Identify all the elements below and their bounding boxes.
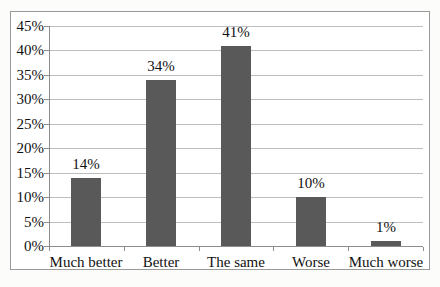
y-tick-label: 0% xyxy=(14,238,44,254)
x-axis-tick xyxy=(49,247,50,251)
y-tick-label: 30% xyxy=(14,91,44,107)
x-axis-tick xyxy=(423,247,424,251)
y-tick-label: 35% xyxy=(14,67,44,83)
bar-much-better xyxy=(71,178,101,246)
y-tick-label: 20% xyxy=(14,140,44,156)
y-axis-tick xyxy=(44,222,49,223)
bar-the-same xyxy=(221,46,251,246)
category-label-much-better: Much better xyxy=(50,254,123,271)
category-label-better: Better xyxy=(143,254,180,271)
y-axis-tick xyxy=(44,50,49,51)
y-tick-label: 15% xyxy=(14,165,44,181)
y-tick-label: 25% xyxy=(14,116,44,132)
category-label-worse: Worse xyxy=(292,254,330,271)
x-axis-tick xyxy=(348,247,349,251)
x-axis-tick xyxy=(273,247,274,251)
y-tick-label: 10% xyxy=(14,189,44,205)
category-label-the-same: The same xyxy=(207,254,265,271)
y-axis-tick xyxy=(44,173,49,174)
x-axis-tick xyxy=(199,247,200,251)
y-tick-label: 45% xyxy=(14,18,44,34)
y-axis-tick xyxy=(44,26,49,27)
y-axis-tick xyxy=(44,148,49,149)
category-label-much-worse: Much worse xyxy=(349,254,424,271)
bar-worse xyxy=(296,197,326,246)
y-tick-label: 40% xyxy=(14,42,44,58)
value-label-much-better: 14% xyxy=(72,156,100,172)
value-label-much-worse: 1% xyxy=(376,219,396,235)
x-axis-line xyxy=(49,246,423,247)
bar-better xyxy=(146,80,176,246)
y-axis-tick xyxy=(44,99,49,100)
bar-much-worse xyxy=(371,241,401,246)
value-label-better: 34% xyxy=(147,58,175,74)
y-axis-line xyxy=(49,26,50,246)
y-axis-tick xyxy=(44,197,49,198)
y-axis-tick xyxy=(44,75,49,76)
y-tick-label: 5% xyxy=(14,214,44,230)
value-label-the-same: 41% xyxy=(222,24,250,40)
value-label-worse: 10% xyxy=(297,175,325,191)
bar-chart-figure: 45%40%35%30%25%20%15%10%5%0%14%Much bett… xyxy=(0,0,440,287)
x-axis-tick xyxy=(124,247,125,251)
y-axis-tick xyxy=(44,124,49,125)
